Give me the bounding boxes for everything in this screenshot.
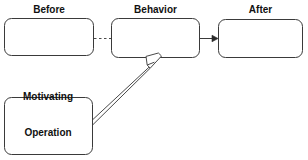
node-content-after[interactable] <box>218 19 303 58</box>
node-content-before[interactable] <box>4 18 94 56</box>
node-content-motivating-operation[interactable] <box>4 97 93 155</box>
connector-mo-to-behavior <box>93 53 162 125</box>
node-label-after: After <box>218 4 303 15</box>
hollow-arrow-shaft-lower <box>93 68 150 124</box>
node-label-behavior: Behavior <box>111 4 200 15</box>
connector-behavior-to-after <box>200 35 218 42</box>
hollow-arrow-shaft-upper <box>93 62 154 119</box>
node-content-behavior[interactable] <box>111 18 200 58</box>
node-label-before: Before <box>4 4 94 15</box>
diagram-canvas: Behavior (dashed, no head) ===== --> Aft… <box>0 0 308 160</box>
